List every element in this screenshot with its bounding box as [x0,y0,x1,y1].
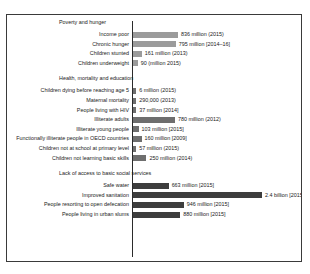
bar [133,146,136,152]
bar-category-label: Children dying before reaching age 5 [7,86,129,95]
bar [133,212,180,218]
bar-value-label: 57 million (2015) [139,144,179,153]
bar-category-label: Maternal mortality [7,96,129,105]
bar-row: Functionally illiterate people in OECD c… [7,134,301,143]
bar [133,155,146,161]
group-title: Poverty and hunger [59,19,106,26]
bar-row: People living in urban slums880 million … [7,210,301,219]
bar-row: Children dying before reaching age 56 mi… [7,86,301,95]
bar [133,192,262,198]
bar-value-label: 836 million (2015) [181,30,224,39]
bar-category-label: Safe water [7,181,129,190]
bar-row: Illiterate young people103 million [2015… [7,125,301,134]
bar [133,107,136,113]
bar [133,98,136,104]
bar-category-label: Children not learning basic skills [7,154,129,163]
bar-value-label: 663 million [2015] [172,181,214,190]
bar [133,88,136,94]
bar-category-label: Functionally illiterate people in OECD c… [7,134,129,143]
bar-category-label: Children stunted [7,49,129,58]
bar [133,117,175,123]
bar-category-label: People living with HIV [7,106,129,115]
bar-row: Improved sanitation2.4 billion [2015] [7,191,301,200]
bar [133,32,178,38]
bar-row: Children not learning basic skills250 mi… [7,154,301,163]
bar [133,183,169,189]
bar-value-label: 250 million (2014) [149,154,192,163]
bar-row: Children stunted161 million (2013) [7,49,301,58]
bar [133,136,142,142]
bar [133,126,139,132]
bar-category-label: Illiterate young people [7,125,129,134]
bar-value-label: 103 million [2015] [142,125,184,134]
bar-row: Illiterate adults780 million (2012) [7,115,301,124]
bar-value-label: 290,000 (2013) [139,96,176,105]
bar-value-label: 946 million [2015] [187,200,229,209]
bar [133,60,138,66]
bar-value-label: 6 million (2015) [139,86,176,95]
bar-value-label: 90 (million 2015) [141,59,181,68]
chart-plot-area: Poverty and hungerIncome poor836 million… [7,15,301,261]
bar [133,41,176,47]
bar-category-label: Illiterate adults [7,115,129,124]
bar-category-label: Children not at school at primary level [7,144,129,153]
bar-category-label: Children underweight [7,59,129,68]
group-title: Lack of access to basic social services [59,170,151,177]
group-title: Health, mortality and education [59,75,133,82]
bar-row: Income poor836 million (2015) [7,30,301,39]
bar-value-label: 2.4 billion [2015] [265,191,302,200]
bar-row: People resorting to open defecation946 m… [7,200,301,209]
bar-row: Maternal mortality290,000 (2013) [7,96,301,105]
bar-category-label: People living in urban slums [7,210,129,219]
bar-category-label: Chronic hunger [7,40,129,49]
bar [133,51,142,57]
bar-category-label: Income poor [7,30,129,39]
bar-value-label: 161 million (2013) [145,49,188,58]
bar-category-label: Improved sanitation [7,191,129,200]
bar-row: Safe water663 million [2015] [7,181,301,190]
bar-row: Chronic hunger795 million [2014–16] [7,40,301,49]
bar-row: Children not at school at primary level5… [7,144,301,153]
bar-category-label: People resorting to open defecation [7,200,129,209]
bar [133,202,184,208]
chart-frame: Poverty and hungerIncome poor836 million… [6,14,302,262]
bar-value-label: 780 million (2012) [178,115,221,124]
bar-value-label: 880 million [2015] [183,210,225,219]
bar-value-label: 795 million [2014–16] [179,40,230,49]
bar-row: People living with HIV37 million [2014] [7,106,301,115]
bar-value-label: 37 million [2014] [139,106,178,115]
bar-row: Children underweight90 (million 2015) [7,59,301,68]
bar-value-label: 160 million [2009] [145,134,187,143]
